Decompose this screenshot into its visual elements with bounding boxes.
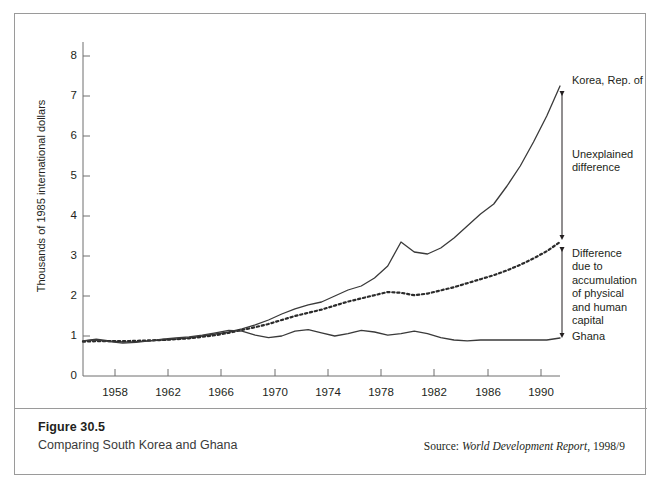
y-tick-marks [83, 56, 90, 336]
y-tick-label-5: 5 [57, 169, 77, 181]
x-tick-label-1986: 1986 [465, 386, 511, 398]
figure-frame: Thousands of 1985 international dollars … [14, 13, 646, 475]
annotation-unexplained-difference: Unexplained difference [572, 148, 633, 175]
chart-canvas [15, 14, 647, 406]
y-tick-label-7: 7 [57, 89, 77, 101]
y-tick-label-1: 1 [57, 329, 77, 341]
x-tick-label-1962: 1962 [145, 386, 191, 398]
x-tick-label-1982: 1982 [411, 386, 457, 398]
x-tick-label-1966: 1966 [198, 386, 244, 398]
source-prefix: Source: [424, 440, 462, 452]
x-tick-label-1974: 1974 [305, 386, 351, 398]
y-tick-label-3: 3 [57, 249, 77, 261]
x-tick-marks [115, 369, 541, 376]
x-tick-label-1958: 1958 [92, 386, 138, 398]
y-tick-label-0: 0 [57, 369, 77, 381]
annotation-ghana-label: Ghana [572, 330, 605, 343]
x-tick-label-1990: 1990 [518, 386, 564, 398]
y-tick-label-2: 2 [57, 289, 77, 301]
figure-number: Figure 30.5 [38, 420, 105, 434]
x-tick-label-1970: 1970 [252, 386, 298, 398]
source-publication: World Development Report [462, 440, 587, 452]
chart-plot-area: Thousands of 1985 international dollars … [15, 14, 647, 406]
figure-caption-text: Comparing South Korea and Ghana [38, 438, 237, 452]
figure-source: Source: World Development Report, 1998/9 [424, 440, 625, 452]
y-tick-label-4: 4 [57, 209, 77, 221]
series-line-korea [83, 86, 560, 342]
figure-caption-block: Figure 30.5 Comparing South Korea and Gh… [15, 408, 647, 474]
annotation-korea-label: Korea, Rep. of [572, 74, 643, 87]
y-tick-label-8: 8 [57, 49, 77, 61]
series-line-accumulation [83, 242, 560, 342]
y-tick-label-6: 6 [57, 129, 77, 141]
annotation-accumulation-difference: Difference due to accumulation of physic… [572, 247, 637, 327]
y-axis-title: Thousands of 1985 international dollars [35, 66, 47, 326]
source-suffix: , 1998/9 [587, 440, 625, 452]
x-tick-label-1978: 1978 [358, 386, 404, 398]
